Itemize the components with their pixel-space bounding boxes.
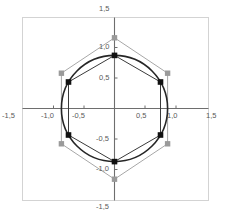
x-tick-label-1-5: 1,5 [206,112,216,120]
y-tick-label-1-0: 1,0 [99,43,109,51]
x-tick-label-1-0: 1,0 [167,112,177,120]
x-tick-label--0-5: -0,5 [72,112,85,120]
x-tick-label--1-0: -1,0 [41,112,54,120]
x-tick-label-0-5: 0,5 [136,112,146,120]
y-tick-label-1-5: 1,5 [99,5,109,13]
y-tick-label--0-5: -0,5 [96,135,109,143]
y-tick-label--1-5: -1,5 [96,203,109,211]
x-tick-label--1-5: -1,5 [2,112,15,120]
chart-figure: -1,5 -1,0 -0,5 0,5 1,0 1,5 1,5 1,0 0,5 -… [0,0,228,221]
chart-canvas [0,0,228,221]
y-tick-label--1-0: -1,0 [96,165,109,173]
y-tick-label-0-5: 0,5 [99,74,109,82]
